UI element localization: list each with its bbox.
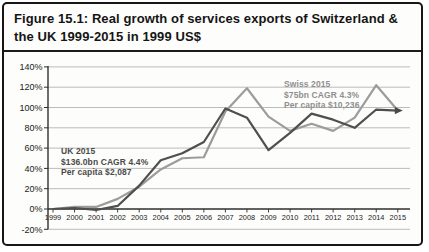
x-axis-label-2001: 2001	[88, 213, 104, 222]
y-axis-label--20: -20%	[21, 225, 42, 235]
y-axis-label-60: 60%	[24, 143, 42, 153]
figure-box: Figure 15.1: Real growth of services exp…	[2, 2, 423, 246]
x-axis-label-2010: 2010	[282, 213, 298, 222]
x-axis-label-2003: 2003	[131, 213, 147, 222]
y-axis-label-40: 40%	[24, 164, 42, 174]
x-axis-label-2002: 2002	[109, 213, 125, 222]
x-axis-label-2015: 2015	[390, 213, 406, 222]
uk-annotation: UK 2015 $136.0bn CAGR 4.4% Per capita $2…	[61, 146, 148, 178]
figure-title: Figure 15.1: Real growth of services exp…	[4, 4, 421, 52]
y-axis-label-140: 140%	[19, 62, 42, 72]
x-axis-label-2007: 2007	[217, 213, 233, 222]
y-axis-label-80: 80%	[24, 123, 42, 133]
x-axis-label-2012: 2012	[325, 213, 341, 222]
figure-title-line-1: Figure 15.1: Real growth of services exp…	[14, 10, 411, 28]
x-axis-label-2006: 2006	[196, 213, 212, 222]
x-axis-label-2014: 2014	[368, 213, 384, 222]
swiss-annotation-line-1: Swiss 2015	[284, 79, 360, 90]
x-axis-label-2000: 2000	[66, 213, 82, 222]
uk-annotation-line-2: $136.0bn CAGR 4.4%	[61, 157, 148, 168]
x-axis-label-1999: 1999	[45, 213, 61, 222]
uk-annotation-line-3: Per capita $2,087	[61, 167, 148, 178]
x-axis-label-2008: 2008	[239, 213, 255, 222]
y-axis-label-100: 100%	[19, 103, 42, 113]
y-axis-label-120: 120%	[19, 82, 42, 92]
swiss-annotation-line-2: $75bn CAGR 4.3%	[284, 90, 360, 101]
swiss-annotation: Swiss 2015 $75bn CAGR 4.3% Per capita $1…	[284, 79, 360, 111]
chart-area: 140%120%100%80%60%40%20%0%-20%1999200020…	[4, 52, 421, 240]
x-axis-label-2004: 2004	[153, 213, 169, 222]
y-axis-label-0: 0%	[29, 204, 42, 214]
x-axis-label-2009: 2009	[260, 213, 276, 222]
endpoint-arrow-marker	[395, 107, 403, 114]
x-axis-label-2013: 2013	[346, 213, 362, 222]
figure-title-line-2: the UK 1999-2015 in 1999 US$	[14, 28, 411, 46]
uk-annotation-line-1: UK 2015	[61, 146, 148, 157]
x-axis-label-2005: 2005	[174, 213, 190, 222]
swiss-annotation-line-3: Per capita $10,236	[284, 100, 360, 111]
y-axis-label-20: 20%	[24, 184, 42, 194]
x-axis-label-2011: 2011	[304, 213, 320, 222]
